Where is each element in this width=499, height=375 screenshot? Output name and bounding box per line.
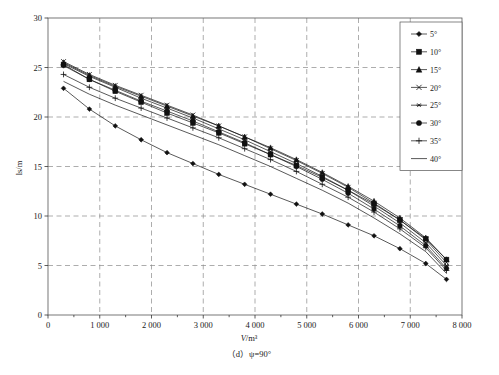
line-chart: 01 0002 0003 0004 0005 0006 0007 0008 00…: [0, 0, 499, 375]
legend-item-label: 10°: [430, 48, 441, 57]
marker-plus: [345, 194, 351, 200]
y-tick-label: 20: [34, 112, 43, 122]
x-tick-label: 8 000: [452, 320, 471, 330]
figure-caption: （d）ψ=90°: [227, 349, 271, 359]
y-tick-label: 15: [34, 162, 43, 172]
marker-plus: [112, 95, 118, 101]
axis-ticks: [45, 18, 463, 319]
marker-diamond: [191, 161, 196, 166]
series-line: [64, 81, 447, 273]
y-tick-label: 0: [38, 310, 42, 320]
marker-circle: [294, 164, 299, 169]
legend-item-label: 25°: [430, 101, 441, 110]
marker-circle: [268, 152, 273, 157]
marker-circle: [87, 77, 92, 82]
marker-diamond: [113, 124, 118, 129]
marker-plus: [268, 157, 274, 163]
series-line: [64, 65, 447, 260]
marker-square: [416, 49, 421, 54]
marker-circle: [191, 119, 196, 124]
marker-diamond: [165, 150, 170, 155]
x-tick-label: 4 000: [245, 320, 264, 330]
marker-circle: [216, 129, 221, 134]
marker-circle: [320, 177, 325, 182]
x-tick-label: 5 000: [297, 320, 316, 330]
marker-plus: [87, 84, 93, 90]
x-tick-label: 0: [46, 320, 50, 330]
marker-diamond: [398, 246, 403, 251]
chart-legend: 5°10°15°20°25°30°35°40°: [400, 22, 462, 170]
marker-plus: [216, 135, 222, 141]
legend-item-label: 5°: [430, 30, 437, 39]
x-tick-label: 7 000: [401, 320, 420, 330]
marker-diamond: [242, 182, 247, 187]
marker-diamond: [346, 223, 351, 228]
marker-diamond: [139, 137, 144, 142]
y-axis-tick-labels: 051015202530: [34, 13, 43, 320]
legend-item-label: 30°: [430, 119, 441, 128]
marker-circle: [165, 109, 170, 114]
series-40deg: [64, 81, 447, 273]
y-tick-label: 25: [34, 63, 43, 73]
legend-item-label: 40°: [430, 155, 441, 164]
x-tick-label: 6 000: [349, 320, 368, 330]
marker-plus: [61, 72, 67, 78]
marker-diamond: [268, 192, 273, 197]
marker-circle: [139, 99, 144, 104]
y-tick-label: 10: [34, 211, 43, 221]
marker-circle: [242, 140, 247, 145]
x-tick-label: 2 000: [142, 320, 161, 330]
marker-plus: [294, 169, 300, 175]
x-tick-label: 1 000: [90, 320, 109, 330]
y-tick-label: 30: [34, 13, 43, 23]
marker-diamond: [372, 233, 377, 238]
legend-item-label: 20°: [430, 84, 441, 93]
marker-circle: [416, 120, 421, 125]
marker-circle: [61, 63, 66, 68]
marker-plus: [242, 146, 248, 152]
x-axis-title: V/m³: [241, 333, 258, 343]
y-axis-title: ls/m: [14, 160, 24, 175]
marker-diamond: [216, 172, 221, 177]
y-tick-label: 5: [38, 261, 42, 271]
marker-plus: [164, 115, 170, 121]
legend-item-label: 15°: [430, 66, 441, 75]
marker-diamond: [294, 202, 299, 207]
x-axis-tick-labels: 01 0002 0003 0004 0005 0006 0007 0008 00…: [46, 320, 472, 330]
legend-box: [400, 22, 462, 170]
marker-plus: [319, 181, 325, 187]
figure-container: 01 0002 0003 0004 0005 0006 0007 0008 00…: [0, 0, 499, 375]
series-line: [64, 63, 447, 260]
legend-item-label: 35°: [430, 137, 441, 146]
marker-circle: [113, 88, 118, 93]
marker-plus: [190, 125, 196, 131]
marker-plus: [138, 105, 144, 111]
x-tick-label: 3 000: [194, 320, 213, 330]
